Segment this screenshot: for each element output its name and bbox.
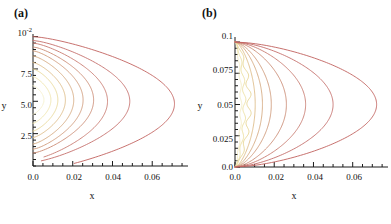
panel-b-xtick-2: 0.04	[301, 172, 329, 182]
panel-b-ytick-1: 0.075	[195, 65, 233, 75]
panel-a-xtick-0: 0.0	[21, 172, 45, 182]
panel-b-ytick-0: 0.1	[195, 31, 233, 41]
panel-b: (b) 0.1 0.075 0.05 0.025 0.0 y 0.0 0.02 …	[195, 0, 391, 224]
panel-a-ytick-2: 2.5	[2, 131, 32, 141]
panel-b-xtick-0: 0.0	[223, 172, 247, 182]
panel-b-xtick-3: 0.06	[340, 172, 368, 182]
panel-a-ytick-0: 7.5	[2, 69, 32, 79]
panel-b-ytick-4: 0.0	[195, 162, 233, 172]
panel-b-xtick-1: 0.02	[262, 172, 290, 182]
panel-b-y-axis-title: y	[193, 100, 207, 111]
panel-a-y-exponent: 10-2	[4, 26, 32, 38]
panel-a-xtick-3: 0.06	[138, 172, 166, 182]
panel-a: (a) 10-2 7.5 5.0 2.5 y 0.0 0.02 0.04 0.0…	[0, 0, 196, 224]
panel-b-ytick-3: 0.025	[195, 134, 233, 144]
panel-a-x-axis-title: x	[85, 190, 99, 201]
panel-a-xtick-2: 0.04	[99, 172, 127, 182]
panel-a-y-exponent-base: 10	[18, 28, 27, 38]
figure-contour-plots: (a) 10-2 7.5 5.0 2.5 y 0.0 0.02 0.04 0.0…	[0, 0, 391, 224]
panel-a-y-axis-title: y	[0, 100, 11, 111]
panel-b-x-axis-title: x	[287, 190, 301, 201]
panel-a-y-exponent-sup: -2	[27, 26, 32, 33]
panel-a-xtick-1: 0.02	[60, 172, 88, 182]
